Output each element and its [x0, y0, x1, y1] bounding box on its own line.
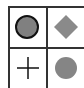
plus-icon [10, 50, 46, 86]
grid-cell-top-right [48, 9, 84, 45]
diamond-icon [48, 9, 84, 45]
grid-cell-bottom-left [10, 50, 46, 86]
circle-outlined-icon [10, 9, 46, 45]
grid-cell-bottom-right [48, 50, 84, 86]
grid-horizontal-divider [8, 47, 84, 49]
grid-cell-top-left [10, 9, 46, 45]
circle-icon [48, 50, 84, 86]
